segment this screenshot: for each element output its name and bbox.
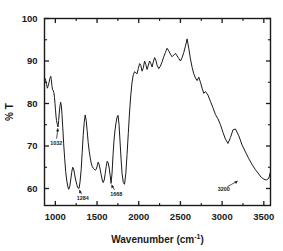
peak-label: 1284 [77, 195, 89, 201]
peak-annotations: 1032128416683200 [50, 128, 237, 201]
peak-label: 1032 [50, 140, 62, 146]
axes-frame [45, 19, 271, 206]
y-axis-title: % T [4, 103, 15, 121]
y-tick-label: 60 [27, 183, 38, 194]
peak-label: 3200 [218, 186, 230, 192]
x-tick-label: 2000 [128, 211, 149, 222]
x-tick-label: 2500 [170, 211, 191, 222]
y-axis-ticks: 60708090100 [22, 13, 271, 194]
x-tick-label: 3000 [212, 211, 233, 222]
x-tick-label: 1000 [45, 211, 66, 222]
y-tick-label: 70 [27, 140, 38, 151]
x-axis-ticks: 100015002000250030003500 [45, 19, 275, 222]
plot-frame [45, 19, 271, 206]
transmittance-curve [45, 39, 270, 189]
spectrum-plot: 100015002000250030003500 60708090100 103… [0, 0, 283, 251]
spectrum-line [45, 39, 270, 189]
y-tick-label: 80 [27, 98, 38, 109]
y-tick-label: 100 [22, 13, 38, 24]
y-tick-label: 90 [27, 55, 38, 66]
x-tick-label: 3500 [253, 211, 274, 222]
annotation-arrowhead [111, 185, 114, 188]
axis-titles: Wavenumber (cm-1)% T [4, 103, 204, 244]
x-tick-label: 1500 [86, 211, 107, 222]
ir-spectrum-figure: 100015002000250030003500 60708090100 103… [0, 0, 283, 251]
x-axis-title: Wavenumber (cm-1) [111, 233, 204, 244]
peak-label: 1668 [110, 191, 122, 197]
